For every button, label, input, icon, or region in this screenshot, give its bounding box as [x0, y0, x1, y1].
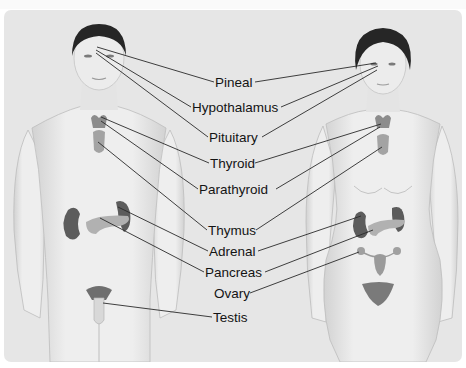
label-hypothalamus: Hypothalamus	[192, 101, 278, 115]
label-ovary: Ovary	[214, 287, 250, 301]
label-parathyroid: Parathyroid	[199, 183, 268, 197]
female-figure	[306, 28, 458, 362]
male-testis-region	[94, 298, 104, 324]
label-pancreas: Pancreas	[205, 266, 262, 280]
cropped-caption-strip	[0, 0, 466, 9]
label-thymus: Thymus	[208, 224, 256, 238]
endocrine-diagram-panel: Pineal Hypothalamus Pituitary Thyroid Pa…	[4, 10, 462, 362]
female-thymus-gland	[377, 134, 389, 155]
male-thymus-gland	[93, 130, 105, 153]
label-adrenal: Adrenal	[209, 245, 256, 259]
label-pineal: Pineal	[215, 76, 253, 90]
label-testis: Testis	[213, 311, 248, 325]
male-figure	[14, 24, 184, 362]
label-thyroid: Thyroid	[210, 157, 255, 171]
label-pituitary: Pituitary	[209, 131, 258, 145]
